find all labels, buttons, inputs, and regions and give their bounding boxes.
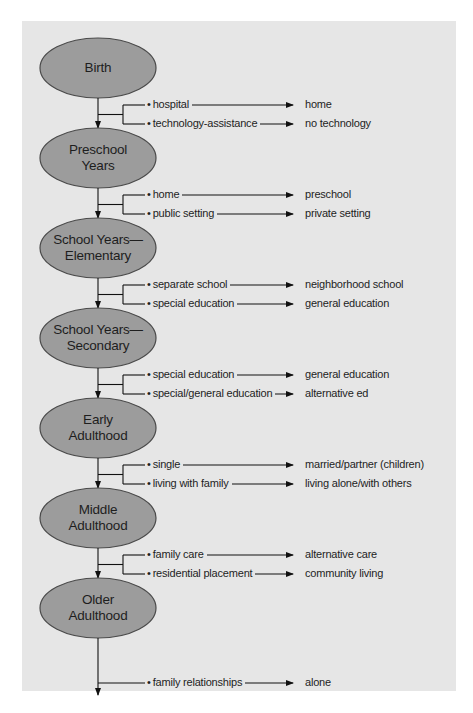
transition-from-label: special education bbox=[153, 297, 235, 309]
transition-to: community living bbox=[305, 567, 383, 580]
bullet-icon: • bbox=[147, 297, 151, 309]
bullet-icon: • bbox=[147, 477, 151, 489]
transition-to: alternative care bbox=[305, 548, 377, 561]
transition-from: •home bbox=[145, 188, 182, 201]
transition-from: •residential placement bbox=[145, 567, 255, 580]
bullet-icon: • bbox=[147, 368, 151, 380]
stage-label-line: Adulthood bbox=[40, 518, 156, 534]
stage-label: School Years—Secondary bbox=[40, 322, 156, 354]
transition-from: •separate school bbox=[145, 278, 230, 291]
stage-label: OlderAdulthood bbox=[40, 592, 156, 624]
transition-from: •public setting bbox=[145, 207, 217, 220]
transition-from: •special education bbox=[145, 368, 237, 381]
bullet-icon: • bbox=[147, 458, 151, 470]
transition-from: •living with family bbox=[145, 477, 232, 490]
transition-from-label: home bbox=[153, 188, 180, 200]
bullet-icon: • bbox=[147, 188, 151, 200]
bullet-icon: • bbox=[147, 278, 151, 290]
stage-label-line: Secondary bbox=[40, 338, 156, 354]
transition-from: •technology-assistance bbox=[145, 117, 260, 130]
transition-to: private setting bbox=[305, 207, 370, 220]
stage-label-line: Adulthood bbox=[40, 608, 156, 624]
transition-to: alternative ed bbox=[305, 387, 368, 400]
stage-label: Birth bbox=[40, 60, 156, 76]
transition-from-label: separate school bbox=[153, 278, 228, 290]
bullet-icon: • bbox=[147, 117, 151, 129]
stage-label-line: Older bbox=[40, 592, 156, 608]
transition-from-label: residential placement bbox=[153, 567, 253, 579]
transition-to: neighborhood school bbox=[305, 278, 403, 291]
stage-label: PreschoolYears bbox=[40, 142, 156, 174]
transition-from-label: single bbox=[153, 458, 181, 470]
transition-to: general education bbox=[305, 368, 389, 381]
stage-label-line: Birth bbox=[40, 60, 156, 76]
transition-from: •family care bbox=[145, 548, 207, 561]
stage-label: School Years—Elementary bbox=[40, 232, 156, 264]
transition-to: alone bbox=[305, 676, 331, 689]
transition-to: no technology bbox=[305, 117, 371, 130]
stage-label-line: School Years— bbox=[40, 232, 156, 248]
stage-label-line: Adulthood bbox=[40, 428, 156, 444]
bullet-icon: • bbox=[147, 387, 151, 399]
transition-to: married/partner (children) bbox=[305, 458, 424, 471]
stage-label: MiddleAdulthood bbox=[40, 502, 156, 534]
stage-label-line: Preschool bbox=[40, 142, 156, 158]
transition-from-label: special/general education bbox=[153, 387, 273, 399]
transition-from-label: living with family bbox=[153, 477, 229, 489]
transition-from: •hospital bbox=[145, 98, 192, 111]
bullet-icon: • bbox=[147, 207, 151, 219]
bullet-icon: • bbox=[147, 98, 151, 110]
stage-label: EarlyAdulthood bbox=[40, 412, 156, 444]
transition-to: home bbox=[305, 98, 332, 111]
bullet-icon: • bbox=[147, 548, 151, 560]
transition-from-label: family care bbox=[153, 548, 204, 560]
transition-from-label: family relationships bbox=[153, 676, 243, 688]
stage-label-line: Early bbox=[40, 412, 156, 428]
transition-from: •single bbox=[145, 458, 183, 471]
transition-from: •special/general education bbox=[145, 387, 275, 400]
transition-from-label: hospital bbox=[153, 98, 189, 110]
transition-to: general education bbox=[305, 297, 389, 310]
transition-from-label: public setting bbox=[153, 207, 214, 219]
transition-from: •special education bbox=[145, 297, 237, 310]
transition-from-label: special education bbox=[153, 368, 235, 380]
stage-label-line: Years bbox=[40, 158, 156, 174]
transition-from-label: technology-assistance bbox=[153, 117, 258, 129]
stage-label-line: School Years— bbox=[40, 322, 156, 338]
transition-to: preschool bbox=[305, 188, 351, 201]
stage-label-line: Elementary bbox=[40, 248, 156, 264]
transition-from: •family relationships bbox=[145, 676, 245, 689]
transition-to: living alone/with others bbox=[305, 477, 411, 490]
bullet-icon: • bbox=[147, 676, 151, 688]
bullet-icon: • bbox=[147, 567, 151, 579]
stage-label-line: Middle bbox=[40, 502, 156, 518]
